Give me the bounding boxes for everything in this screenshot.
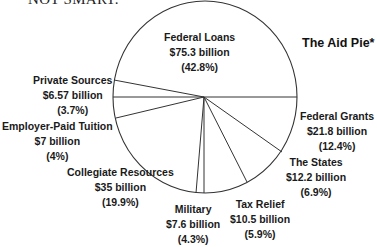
label-federal-loans: Federal Loans $75.3 billion (42.8%)	[164, 30, 235, 75]
label-the-states: The States $12.2 billion (6.9%)	[286, 155, 346, 200]
chart-title: The Aid Pie*	[302, 36, 374, 50]
label-private-sources: Private Sources $6.57 billion (3.7%)	[33, 73, 112, 118]
label-employer-paid-tuition: Employer-Paid Tuition $7 billion (4%)	[2, 119, 113, 164]
label-federal-grants: Federal Grants $21.8 billion (12.4%)	[300, 109, 374, 154]
label-military: Military $7.6 billion (4.3%)	[166, 202, 220, 247]
label-collegiate-resources: Collegiate Resources $35 billion (19.9%)	[67, 165, 174, 210]
label-tax-relief: Tax Relief $10.5 billion (5.9%)	[230, 197, 290, 242]
